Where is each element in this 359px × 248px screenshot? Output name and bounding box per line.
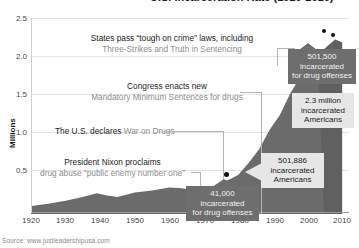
callout-pointer-total-1980 (245, 163, 262, 181)
y-tick-2.5: 2.5 (5, 14, 27, 23)
x-tick-1920: 1920 (18, 216, 44, 225)
callout-drug-offenses-2010: 501,500 incarcerated for drug offenses (288, 49, 356, 84)
y-tick-1.5: 1.5 (5, 90, 27, 99)
leader-line-tough-on-crime-v (277, 48, 278, 66)
callout-drug-offenses-2010-line1: 501,500 (292, 52, 352, 62)
callout-total-1980: 501,886 incarcerated Americans (261, 153, 324, 188)
y-tick-0.5: 0.5 (5, 166, 27, 175)
data-point-1980 (224, 172, 229, 177)
data-point-peak-2008 (322, 29, 326, 33)
chart-title: U.S. Incarceration Rate (1920-2010) (150, 0, 333, 3)
callout-drug-offenses-1980: 41,000 incarcerated for drug offenses (186, 186, 259, 221)
x-tick-1960: 1960 (157, 216, 183, 225)
annotation-tough-on-crime-line1: States pass “tough on crime” laws, inclu… (72, 33, 272, 44)
callout-total-1980-line3: Americans (265, 175, 320, 185)
y-tick-2.0: 2.0 (5, 52, 27, 61)
callout-drug-offenses-1980-line2: incarcerated (190, 199, 255, 209)
callout-total-2010-line1: 2.3 million (296, 96, 350, 106)
chart-figure: U.S. Incarceration Rate (1920-2010) Mill… (0, 0, 359, 248)
x-tick-1990: 1990 (262, 216, 288, 225)
x-tick-1950: 1950 (122, 216, 148, 225)
callout-drug-offenses-1980-line1: 41,000 (190, 189, 255, 199)
annotation-war-on-drugs-line1: The U.S. declares (55, 126, 121, 136)
data-point-2010 (331, 33, 335, 37)
annotation-mandatory-minimums: Congress enacts new Mandatory Minimum Se… (72, 81, 262, 102)
x-tick-1940: 1940 (87, 216, 113, 225)
y-tick-1.0: 1.0 (5, 128, 27, 137)
annotation-war-on-drugs: The U.S. declares War on Drugs (55, 126, 175, 137)
leader-line-war-on-drugs-h (162, 131, 224, 132)
x-tick-1930: 1930 (52, 216, 78, 225)
source-caption: Source: www.justleadershipusa.com (2, 237, 110, 244)
callout-drug-offenses-2010-line2: incarcerated (292, 62, 352, 72)
callout-total-2010: 2.3 million incarcerated Americans (292, 93, 354, 128)
callout-total-1980-line2: incarcerated (265, 166, 320, 176)
annotation-tough-on-crime: States pass “tough on crime” laws, inclu… (72, 33, 272, 54)
annotation-mandatory-minimums-line2: Mandatory Minimum Sentences for drugs (72, 92, 262, 103)
leader-line-mandatory-minimums-h (240, 92, 262, 93)
annotation-nixon: President Nixon proclaims drug abuse “pu… (30, 157, 195, 178)
callout-total-2010-line2: incarcerated (296, 106, 350, 116)
annotation-nixon-line2: drug abuse “public enemy number one” (30, 168, 195, 179)
annotation-nixon-line1: President Nixon proclaims (30, 157, 195, 168)
callout-drug-offenses-2010-line3: for drug offenses (292, 71, 352, 81)
callout-total-1980-line1: 501,886 (265, 156, 320, 166)
x-tick-2000: 2000 (296, 216, 322, 225)
callout-total-2010-line3: Americans (296, 115, 350, 125)
y-axis-line (31, 18, 32, 213)
annotation-tough-on-crime-line2: Three-Strikes and Truth in Sentencing (72, 44, 272, 55)
callout-drug-offenses-1980-line3: for drug offenses (190, 208, 255, 218)
x-tick-2010: 2010 (329, 216, 355, 225)
annotation-mandatory-minimums-line1: Congress enacts new (72, 81, 262, 92)
